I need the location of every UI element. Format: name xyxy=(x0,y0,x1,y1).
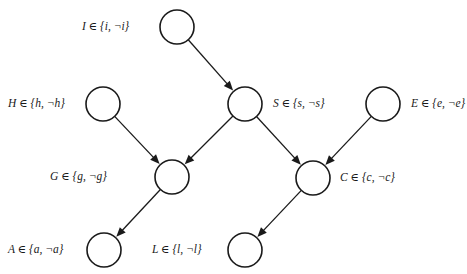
edge-s-to-c xyxy=(257,117,301,165)
edge-i-to-s xyxy=(188,40,233,91)
node-label-g: G ∈ {g, ¬g} xyxy=(50,171,107,183)
node-i[interactable] xyxy=(160,10,194,44)
node-label-c: C ∈ {c, ¬c} xyxy=(340,172,395,184)
edge-line xyxy=(188,116,233,161)
node-h[interactable] xyxy=(86,87,120,121)
node-label-s: S ∈ {s, ¬s} xyxy=(273,98,325,110)
edge-c-to-l xyxy=(257,190,301,237)
edge-line xyxy=(120,189,161,233)
edge-line xyxy=(257,117,298,161)
node-e[interactable] xyxy=(366,87,400,121)
node-label-h: H ∈ {h, ¬h} xyxy=(8,98,65,110)
node-label-a: A ∈ {a, ¬a} xyxy=(8,244,63,256)
bayesian-network-diagram: I ∈ {i, ¬i}H ∈ {h, ¬h}S ∈ {s, ¬s}E ∈ {e,… xyxy=(0,0,467,274)
node-c[interactable] xyxy=(296,161,330,195)
nodes-layer xyxy=(86,10,400,267)
edge-h-to-g xyxy=(115,116,160,164)
node-label-i: I ∈ {i, ¬i} xyxy=(82,21,129,33)
node-a[interactable] xyxy=(87,233,121,267)
edges-layer xyxy=(115,40,372,237)
edge-e-to-c xyxy=(325,116,371,165)
node-l[interactable] xyxy=(228,233,262,267)
edge-line xyxy=(188,40,229,87)
edge-line xyxy=(115,116,156,160)
node-label-e: E ∈ {e, ¬e} xyxy=(411,98,465,110)
node-label-l: L ∈ {l, ¬l} xyxy=(152,244,202,256)
network-graph-canvas xyxy=(0,0,467,274)
edge-line xyxy=(261,190,301,233)
edge-line xyxy=(329,116,371,161)
edge-s-to-g xyxy=(185,116,233,164)
node-g[interactable] xyxy=(155,160,189,194)
node-s[interactable] xyxy=(228,87,262,121)
edge-g-to-a xyxy=(116,189,160,236)
